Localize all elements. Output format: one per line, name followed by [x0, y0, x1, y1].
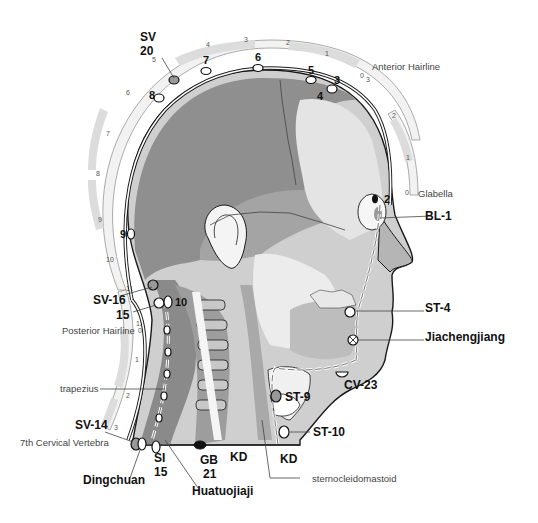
label-4: 4: [317, 90, 324, 102]
point-10: [164, 296, 172, 308]
label-kd-right: KD: [280, 452, 298, 466]
label-3: 3: [334, 74, 340, 86]
point-7: [201, 68, 211, 75]
label-st10: ST-10: [313, 425, 345, 439]
label-kd-left: KD: [230, 450, 248, 464]
ruler-tick-10: 10: [106, 256, 114, 263]
ruler-tick-neck-1: 1: [135, 356, 139, 363]
label-7: 7: [203, 54, 209, 66]
point-sv20: [169, 76, 179, 84]
ruler-tick-2b: 2: [392, 112, 396, 119]
label-sv14: SV-14: [75, 418, 108, 432]
label-sternocleidomastoid: sternocleidomastoid: [312, 473, 397, 484]
point-st4: [345, 307, 355, 317]
point-st10: [279, 426, 289, 438]
ruler-tick-1: 1: [325, 50, 329, 57]
ruler-tick-0: 0: [360, 72, 364, 79]
label-huatuojiaji: Huatuojiaji: [192, 484, 253, 498]
point-gb21: [194, 441, 206, 449]
ruler-tick-8: 8: [96, 170, 100, 177]
label-st4: ST-4: [425, 301, 451, 315]
label-posterior-hairline: Posterior Hairline: [62, 325, 135, 336]
point-cv23: [336, 372, 348, 377]
label-glabella: Glabella: [418, 188, 454, 199]
point-3: [327, 85, 337, 93]
point-15: [154, 298, 164, 308]
label-si15-num: 15: [154, 465, 168, 479]
label-2: 2: [384, 193, 390, 205]
label-gb21-num: 21: [203, 467, 217, 481]
label-8: 8: [149, 89, 155, 101]
label-st9: ST-9: [285, 390, 311, 404]
point-5: [306, 77, 316, 84]
point-st9: [271, 390, 281, 402]
point-8: [154, 94, 164, 102]
label-gb: GB: [200, 453, 218, 467]
ruler-tick-1b: 1: [406, 154, 410, 161]
label-10: 10: [175, 296, 187, 308]
ruler-tick-3: 3: [244, 36, 248, 43]
ruler-tick-neck-0: 0: [138, 327, 142, 334]
ruler-tick-2: 2: [286, 39, 290, 46]
label-jiachengjiang: Jiachengjiang: [425, 330, 505, 344]
ruler-tick-neck-2: 2: [126, 392, 130, 399]
ruler-tick-9: 9: [98, 216, 102, 223]
point-6: [253, 65, 263, 72]
label-5: 5: [308, 64, 314, 76]
point-dingchuan: [138, 438, 146, 450]
label-dingchuan: Dingchuan: [83, 473, 145, 487]
label-7th-cervical: 7th Cervical Vertebra: [20, 437, 109, 448]
acupuncture-head-diagram: 5 4 3 2 1 0 3 2 1 0 6 7 8 9 10 11 12 0 1…: [0, 0, 538, 523]
label-sv16: SV-16: [93, 293, 126, 307]
label-trapezius: trapezius: [60, 383, 99, 394]
ruler-tick-4: 4: [206, 41, 210, 48]
label-9: 9: [120, 228, 126, 240]
ruler-tick-6: 6: [126, 89, 130, 96]
ruler-tick-0b: 0: [405, 189, 409, 196]
label-si: SI: [154, 451, 165, 465]
label-15: 15: [116, 308, 130, 322]
ruler-tick-3b: 3: [366, 76, 370, 83]
point-2: [373, 195, 378, 203]
point-9: [128, 229, 135, 239]
label-bl1: BL-1: [425, 209, 452, 223]
label-6: 6: [255, 51, 261, 63]
label-anterior-hairline: Anterior Hairline: [372, 61, 440, 72]
label-sv: SV: [140, 30, 156, 44]
point-sv16: [148, 280, 158, 290]
ruler-tick-7: 7: [106, 130, 110, 137]
label-cv23: CV-23: [344, 378, 378, 392]
ruler-tick-neck-3: 3: [114, 424, 118, 431]
label-sv20-num: 20: [140, 44, 154, 58]
